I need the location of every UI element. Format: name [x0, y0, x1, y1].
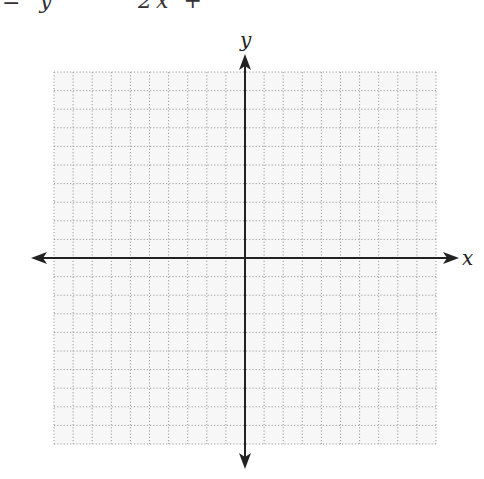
y-axis-label: y [239, 28, 252, 52]
x-axis-label: x [462, 246, 473, 270]
coordinate-plane: x y [0, 0, 484, 479]
